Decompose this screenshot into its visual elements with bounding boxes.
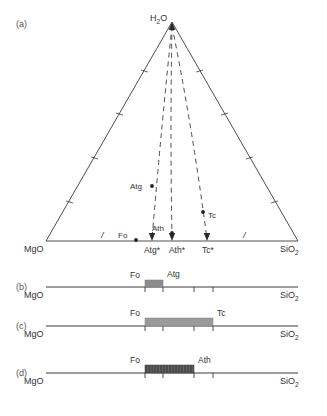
- panel-d-bar-label-left: Fo: [130, 355, 140, 365]
- baseline-point-fo: Fo: [118, 231, 138, 242]
- panel-c: (c) Fo Tc MgO SiO2: [16, 308, 299, 341]
- ternary-triangle-outline: [46, 22, 298, 241]
- point-atg: [150, 184, 154, 188]
- baseline-projection-labels: Atg* Ath* Tc*: [144, 245, 215, 255]
- projection-dashed-lines: [152, 26, 207, 239]
- panel-b-bar-label-left: Fo: [130, 270, 140, 280]
- panel-a-tag: (a): [16, 19, 27, 29]
- point-tc: [201, 210, 205, 214]
- point-fo: [134, 238, 138, 242]
- point-label-atg: Atg: [130, 182, 142, 191]
- panel-b-label-mgo: MgO: [24, 290, 44, 300]
- point-ath: [170, 231, 174, 235]
- panel-c-bar-label-left: Fo: [130, 308, 140, 318]
- right-edge-ticks: [196, 70, 278, 203]
- point-label-fo: Fo: [118, 231, 128, 240]
- apex-label-h2o: H2O: [150, 13, 167, 25]
- panel-c-bar-label-right: Tc: [217, 308, 226, 318]
- panel-c-label-mgo: MgO: [24, 329, 44, 339]
- projection-line-ath: [171, 26, 172, 239]
- axis-label-tc-star: Tc*: [202, 245, 215, 255]
- panel-c-ticks: [145, 326, 213, 331]
- point-label-ath: Ath: [152, 224, 164, 233]
- projection-line-atg: [152, 26, 172, 239]
- panel-c-label-sio2: SiO2: [280, 329, 299, 341]
- axis-label-ath-star: Ath*: [169, 245, 186, 255]
- vertex-label-sio2-a: SiO2: [280, 244, 299, 256]
- panel-b: (b) Fo Atg MgO SiO2: [16, 269, 299, 302]
- baseline-arrowheads: [149, 233, 210, 241]
- panel-d-bar-label-right: Ath: [198, 355, 211, 365]
- panel-d-compatibility-bar: [145, 365, 194, 373]
- panel-b-label-sio2: SiO2: [280, 290, 299, 302]
- arrowhead-tc-star: [204, 233, 210, 241]
- panel-c-compatibility-bar: [145, 318, 213, 326]
- interior-phase-points: Atg Tc Ath: [130, 182, 216, 235]
- panel-b-bar-label-right: Atg: [167, 269, 180, 279]
- panel-d-ticks: [145, 373, 213, 378]
- arrowhead-atg-star: [149, 233, 155, 241]
- projection-line-tc: [172, 26, 207, 239]
- panel-b-ticks: [145, 287, 213, 292]
- panel-b-compatibility-bar: [145, 280, 163, 287]
- point-label-tc: Tc: [208, 211, 216, 220]
- panel-d-label-mgo: MgO: [24, 376, 44, 386]
- panel-d: (d) Fo Ath MgO SiO2: [16, 355, 299, 388]
- axis-label-atg-star: Atg*: [144, 245, 161, 255]
- ternary-phase-diagram-figure: (a): [0, 0, 327, 416]
- panel-a: (a): [16, 13, 299, 256]
- panel-d-label-sio2: SiO2: [280, 376, 299, 388]
- vertex-label-mgo-a: MgO: [24, 244, 44, 254]
